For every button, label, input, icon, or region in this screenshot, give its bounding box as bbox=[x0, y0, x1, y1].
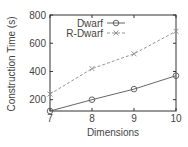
x-tick-label: 8 bbox=[89, 113, 95, 124]
x-tick-label: 9 bbox=[131, 113, 137, 124]
y-tick-label: 200 bbox=[29, 94, 46, 105]
legend-label: R-Dwarf bbox=[66, 28, 103, 39]
y-tick-label: 600 bbox=[29, 38, 46, 49]
x-marker-icon bbox=[132, 51, 137, 56]
series-dwarf bbox=[47, 73, 179, 114]
series-line bbox=[50, 76, 176, 111]
legend: DwarfR-Dwarf bbox=[66, 18, 125, 39]
plot-axes: 20040060080078910 bbox=[29, 10, 182, 125]
line-chart: 20040060080078910 DwarfR-Dwarf Dimension… bbox=[0, 0, 188, 147]
y-axis-label: Construction Time (s) bbox=[6, 16, 17, 111]
series-r-dwarf bbox=[48, 29, 179, 97]
x-tick-label: 7 bbox=[47, 113, 53, 124]
plot-series bbox=[47, 29, 179, 114]
x-axis-label: Dimensions bbox=[87, 127, 139, 138]
series-line bbox=[50, 31, 176, 94]
x-tick-label: 10 bbox=[170, 113, 182, 124]
x-marker-icon bbox=[90, 66, 95, 71]
y-tick-label: 800 bbox=[29, 10, 46, 21]
y-tick-label: 400 bbox=[29, 66, 46, 77]
